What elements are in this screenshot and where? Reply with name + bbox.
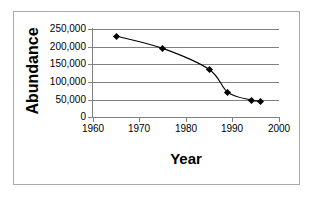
y-tick-label-200000: 200,000 bbox=[34, 41, 86, 52]
gridline-100000 bbox=[93, 82, 279, 83]
x-axis-tick-2000 bbox=[279, 118, 280, 122]
gridline-250000 bbox=[93, 29, 279, 30]
y-axis-tick-150000 bbox=[88, 64, 92, 65]
x-tick-label-1960: 1960 bbox=[73, 123, 113, 134]
y-tick-label-150000: 150,000 bbox=[34, 58, 86, 69]
gridline-200000 bbox=[93, 47, 279, 48]
y-axis-tick-100000 bbox=[88, 82, 92, 83]
x-axis-tick-1960 bbox=[93, 118, 94, 122]
y-axis-tick-50000 bbox=[88, 100, 92, 101]
x-axis-title: Year bbox=[93, 150, 279, 167]
y-axis-tick-200000 bbox=[88, 47, 92, 48]
x-axis-tick-1970 bbox=[139, 118, 140, 122]
y-tick-label-0: 0 bbox=[34, 111, 86, 122]
y-tick-label-50000: 50,000 bbox=[34, 94, 86, 105]
y-tick-label-100000: 100,000 bbox=[34, 76, 86, 87]
x-tick-label-1990: 1990 bbox=[212, 123, 252, 134]
y-tick-label-250000: 250,000 bbox=[34, 23, 86, 34]
y-axis-tick-0 bbox=[88, 117, 92, 118]
x-tick-label-1970: 1970 bbox=[119, 123, 159, 134]
x-tick-label-1980: 1980 bbox=[166, 123, 206, 134]
x-tick-label-2000: 2000 bbox=[259, 123, 299, 134]
y-axis-line bbox=[92, 28, 93, 118]
y-axis-tick-labels: 250,000 200,000 150,000 100,000 50,000 0 bbox=[33, 0, 86, 140]
x-axis-tick-1990 bbox=[232, 118, 233, 122]
x-axis-tick-1980 bbox=[186, 118, 187, 122]
gridline-150000 bbox=[93, 64, 279, 65]
y-axis-tick-250000 bbox=[88, 29, 92, 30]
chart-figure: Abundance 250,000 200,000 150,000 100,00… bbox=[0, 0, 315, 197]
